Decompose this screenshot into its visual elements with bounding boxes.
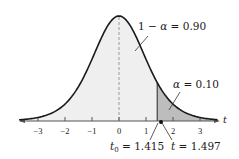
center-area-lhs: 1 − xyxy=(138,20,160,32)
tick-label: 0 xyxy=(117,127,121,136)
axis-label-t: t xyxy=(223,115,227,125)
test-statistic-label: t = 1.497 xyxy=(171,141,221,152)
tick-label: −3 xyxy=(33,127,42,136)
tick-label: −2 xyxy=(60,127,69,136)
center-area-value: = 0.90 xyxy=(167,20,206,32)
leader-critical xyxy=(150,123,158,140)
test-statistic-value: = 1.497 xyxy=(175,140,221,152)
tick-label: 1 xyxy=(144,127,148,136)
tick-label: 2 xyxy=(171,127,175,136)
critical-value: = 1.415 xyxy=(119,140,165,152)
tail-area-label: α = 0.10 xyxy=(173,79,219,90)
test-statistic-point xyxy=(159,120,163,124)
tick-label: −1 xyxy=(87,127,96,136)
critical-value-label: t0 = 1.415 xyxy=(110,141,164,154)
tick-label: 3 xyxy=(198,127,202,136)
tail-area-value: = 0.10 xyxy=(180,78,219,90)
center-area-label: 1 − α = 0.90 xyxy=(138,21,206,32)
